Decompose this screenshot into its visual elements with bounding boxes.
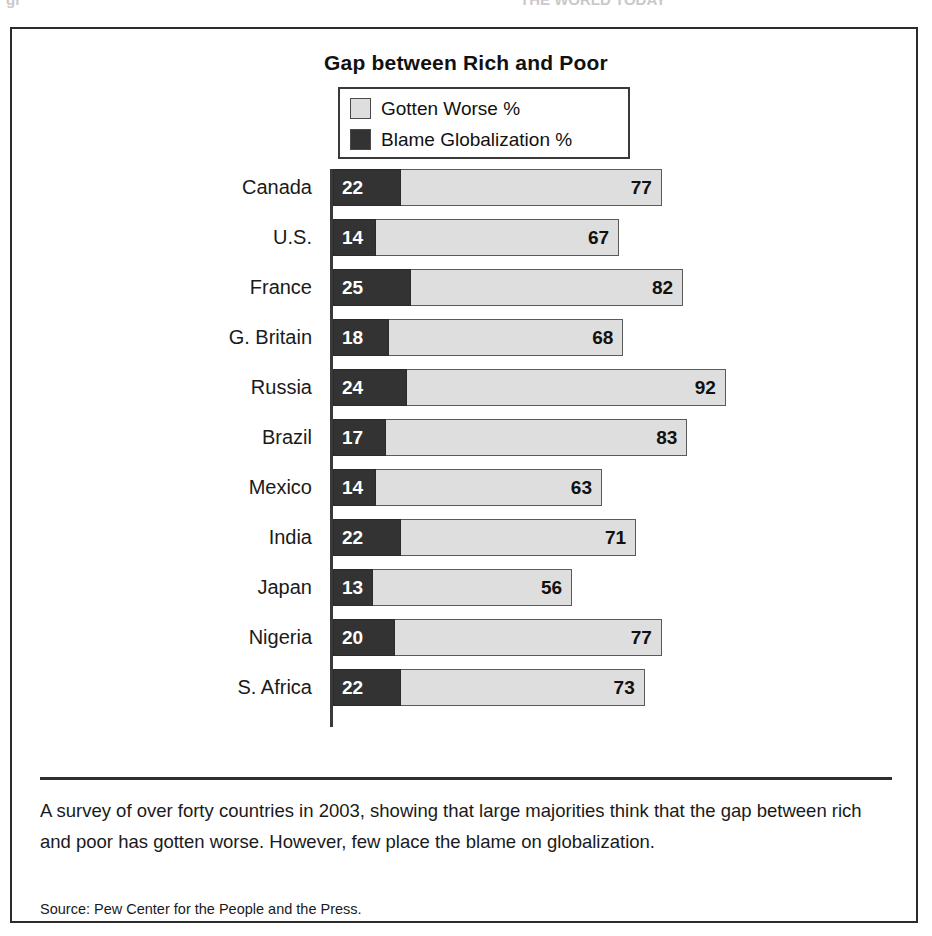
legend-label-gotten-worse: Gotten Worse %: [381, 99, 520, 118]
bar-value-gotten-worse: 68: [592, 320, 613, 355]
bar-blame-globalization: 24: [333, 369, 407, 406]
bar-value-blame-globalization: 25: [342, 270, 363, 305]
bar-blame-globalization: 13: [333, 569, 373, 606]
bar-group: 7720: [333, 619, 780, 656]
chart-legend: Gotten Worse % Blame Globalization %: [338, 87, 630, 159]
bar-value-gotten-worse: 63: [571, 470, 592, 505]
bar-value-gotten-worse: 73: [614, 670, 635, 705]
bar-gotten-worse: 83: [333, 419, 687, 456]
caption-divider: [40, 777, 892, 780]
bar-group: 7122: [333, 519, 780, 556]
page-header-left-fragment: gr: [6, 0, 21, 8]
chart-row: Russia9224: [12, 369, 920, 406]
chart-row: Brazil8317: [12, 419, 920, 456]
bar-blame-globalization: 14: [333, 219, 376, 256]
bar-blame-globalization: 14: [333, 469, 376, 506]
bar-value-gotten-worse: 77: [631, 620, 652, 655]
bar-group: 8317: [333, 419, 780, 456]
chart-row: France8225: [12, 269, 920, 306]
chart-row: Canada7722: [12, 169, 920, 206]
bar-value-blame-globalization: 14: [342, 220, 363, 255]
figure-page: gr THE WORLD TODAY Gap between Rich and …: [0, 0, 932, 936]
bar-blame-globalization: 22: [333, 169, 401, 206]
bar-blame-globalization: 25: [333, 269, 411, 306]
bar-value-blame-globalization: 22: [342, 520, 363, 555]
bar-value-gotten-worse: 82: [652, 270, 673, 305]
bar-blame-globalization: 22: [333, 519, 401, 556]
country-label: Canada: [12, 169, 320, 206]
page-header-right-fragment: THE WORLD TODAY: [520, 0, 666, 8]
legend-item-gotten-worse: Gotten Worse %: [350, 93, 628, 124]
bar-group: 8225: [333, 269, 780, 306]
country-label: U.S.: [12, 219, 320, 256]
bar-group: 7722: [333, 169, 780, 206]
bar-blame-globalization: 22: [333, 669, 401, 706]
bar-group: 6818: [333, 319, 780, 356]
bar-blame-globalization: 20: [333, 619, 395, 656]
bar-value-blame-globalization: 22: [342, 670, 363, 705]
bar-value-blame-globalization: 20: [342, 620, 363, 655]
chart-row: India7122: [12, 519, 920, 556]
bar-group: 5613: [333, 569, 780, 606]
bar-value-gotten-worse: 56: [541, 570, 562, 605]
bar-group: 7322: [333, 669, 780, 706]
chart-row: U.S.6714: [12, 219, 920, 256]
bar-blame-globalization: 17: [333, 419, 386, 456]
chart-row: Mexico6314: [12, 469, 920, 506]
bar-value-blame-globalization: 22: [342, 170, 363, 205]
bar-value-blame-globalization: 17: [342, 420, 363, 455]
chart-row: Japan5613: [12, 569, 920, 606]
bar-value-gotten-worse: 67: [588, 220, 609, 255]
country-label: Mexico: [12, 469, 320, 506]
country-label: Russia: [12, 369, 320, 406]
bar-value-gotten-worse: 71: [605, 520, 626, 555]
country-label: G. Britain: [12, 319, 320, 356]
bar-value-gotten-worse: 83: [656, 420, 677, 455]
legend-label-blame-globalization: Blame Globalization %: [381, 130, 572, 149]
country-label: Nigeria: [12, 619, 320, 656]
bar-value-blame-globalization: 18: [342, 320, 363, 355]
country-label: S. Africa: [12, 669, 320, 706]
chart-row: G. Britain6818: [12, 319, 920, 356]
bar-value-blame-globalization: 13: [342, 570, 363, 605]
bar-group: 6714: [333, 219, 780, 256]
chart-row: S. Africa7322: [12, 669, 920, 706]
legend-swatch-gotten-worse: [350, 98, 371, 119]
bar-value-blame-globalization: 24: [342, 370, 363, 405]
legend-item-blame-globalization: Blame Globalization %: [350, 124, 628, 155]
country-label: India: [12, 519, 320, 556]
country-label: Brazil: [12, 419, 320, 456]
figure-caption: A survey of over forty countries in 2003…: [40, 795, 896, 857]
bar-chart-plot: Canada7722U.S.6714France8225G. Britain68…: [12, 169, 920, 739]
figure-frame: Gap between Rich and Poor Gotten Worse %…: [10, 27, 918, 923]
figure-source: Source: Pew Center for the People and th…: [40, 901, 896, 917]
bar-value-gotten-worse: 92: [695, 370, 716, 405]
bar-value-blame-globalization: 14: [342, 470, 363, 505]
country-label: France: [12, 269, 320, 306]
chart-row: Nigeria7720: [12, 619, 920, 656]
bar-blame-globalization: 18: [333, 319, 389, 356]
legend-swatch-blame-globalization: [350, 129, 371, 150]
cropped-page-header: gr THE WORLD TODAY: [0, 0, 932, 14]
country-label: Japan: [12, 569, 320, 606]
bar-value-gotten-worse: 77: [631, 170, 652, 205]
bar-group: 6314: [333, 469, 780, 506]
chart-title: Gap between Rich and Poor: [12, 51, 920, 75]
bar-group: 9224: [333, 369, 780, 406]
